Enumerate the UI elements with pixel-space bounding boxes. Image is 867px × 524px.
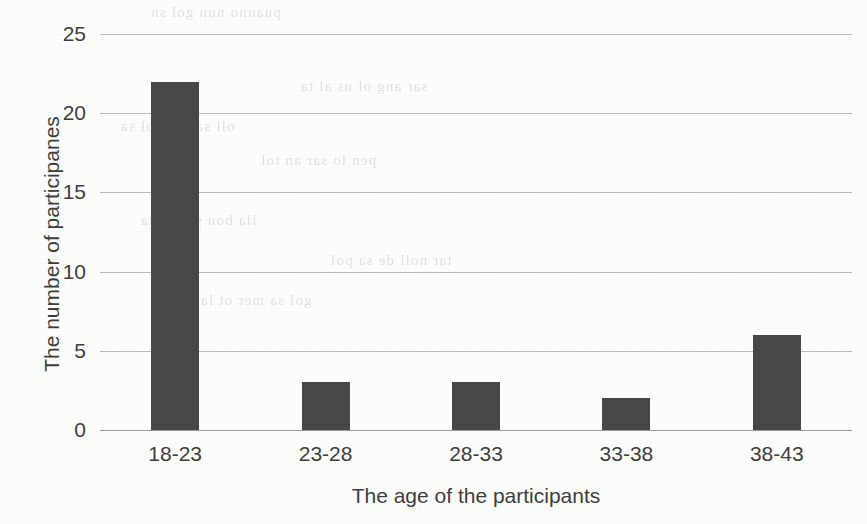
ghost-text-line: puanno nun gol sn (150, 4, 281, 21)
bar[interactable] (151, 82, 199, 430)
x-tick-label: 23-28 (299, 442, 353, 466)
y-tick-label: 25 (40, 22, 86, 46)
x-tick-label: 28-33 (449, 442, 503, 466)
x-tick-label: 33-38 (600, 442, 654, 466)
y-axis-tick-labels: 25 20 15 10 5 0 (36, 34, 86, 430)
x-axis-title: The age of the participants (100, 484, 852, 508)
y-tick-label: 5 (40, 339, 86, 363)
bar[interactable] (302, 382, 350, 430)
y-tick-label: 20 (40, 101, 86, 125)
x-tick-label: 38-43 (750, 442, 804, 466)
plot-area (100, 34, 852, 430)
bar-slot (250, 34, 400, 430)
y-tick-label: 10 (40, 260, 86, 284)
x-axis-tick-labels: 18-23 23-28 28-33 33-38 38-43 (100, 442, 852, 478)
bar-slot (100, 34, 250, 430)
bar-slot (702, 34, 852, 430)
bar[interactable] (452, 382, 500, 430)
bar[interactable] (602, 398, 650, 430)
x-tick-label: 18-23 (148, 442, 202, 466)
y-tick-label: 0 (40, 418, 86, 442)
bar-chart-figure: puanno nun gol sn sar ang ol us al ta ol… (0, 0, 867, 524)
bars-layer (100, 34, 852, 430)
axis-baseline-0 (100, 430, 852, 431)
bar[interactable] (753, 335, 801, 430)
y-tick-label: 15 (40, 180, 86, 204)
bar-slot (551, 34, 701, 430)
bar-slot (401, 34, 551, 430)
